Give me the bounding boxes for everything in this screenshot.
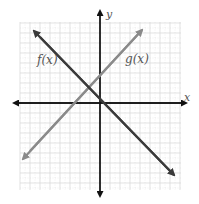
g-label: g(x) [125,52,149,66]
x-axis-label: x [184,91,191,104]
g-line-tail [23,30,142,159]
function-graph: f(x) g(x) y x [0,0,199,204]
y-axis-label: y [105,8,113,21]
f-label: f(x) [36,53,58,67]
